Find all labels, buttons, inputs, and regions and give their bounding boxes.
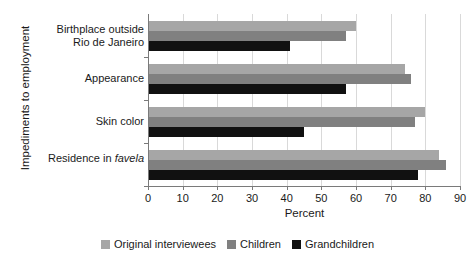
x-tick-label: 50 [306,192,336,204]
bar [148,107,425,117]
bar [148,31,346,41]
legend-swatch-icon [292,240,301,249]
y-category-label-line: Skin color [20,115,144,128]
bar [148,127,304,137]
x-tick-label: 70 [376,192,406,204]
legend-swatch-icon [101,240,110,249]
x-tick-mark [425,186,426,190]
x-tick-label: 0 [133,192,163,204]
x-tick-label: 40 [272,192,302,204]
x-tick-mark [252,186,253,190]
legend-swatch-icon [227,240,236,249]
legend-label: Children [240,238,281,250]
chart-legend: Original intervieweesChildrenGrandchildr… [0,236,475,252]
bar [148,160,446,170]
y-axis-category-labels: Birthplace outsideRio de JaneiroAppearan… [20,14,144,186]
legend-entry[interactable]: Original interviewees [101,238,216,250]
x-tick-label: 80 [410,192,440,204]
x-tick-label: 60 [341,192,371,204]
bar [148,117,415,127]
bar [148,64,405,74]
chart-figure: Impediments to employment Birthplace out… [0,0,475,265]
legend-label: Grandchildren [305,238,374,250]
x-tick-mark [321,186,322,190]
chart-title-cropped [0,0,475,9]
x-tick-mark [217,186,218,190]
bar [148,21,356,31]
x-tick-mark [460,186,461,190]
y-category-label-line: Appearance [20,72,144,85]
bar [148,170,418,180]
x-tick-label: 20 [202,192,232,204]
x-tick-mark [148,186,149,190]
legend-entry[interactable]: Grandchildren [292,238,374,250]
bar [148,74,411,84]
y-tick-mark [144,186,148,187]
y-tick-mark [144,57,148,58]
bar [148,150,439,160]
y-category-label: Skin color [20,115,144,128]
x-tick-mark [287,186,288,190]
y-category-label: Birthplace outsideRio de Janeiro [20,23,144,48]
plot-area [148,14,460,186]
x-tick-label: 30 [237,192,267,204]
y-tick-mark [144,100,148,101]
y-tick-mark [144,143,148,144]
gridline [460,14,461,186]
x-tick-mark [391,186,392,190]
y-category-label-line: Birthplace outside [20,23,144,36]
x-tick-label: 90 [445,192,475,204]
bar [148,41,290,51]
y-axis-line [148,14,149,186]
x-axis-line [148,186,461,187]
bar [148,84,346,94]
y-category-label: Residence in favela [20,152,144,165]
x-axis-title: Percent [148,207,461,219]
legend-entry[interactable]: Children [227,238,281,250]
x-tick-label: 10 [168,192,198,204]
x-tick-mark [356,186,357,190]
legend-label: Original interviewees [114,238,216,250]
y-category-label: Appearance [20,72,144,85]
x-tick-mark [183,186,184,190]
y-category-label-line: Rio de Janeiro [20,36,144,49]
